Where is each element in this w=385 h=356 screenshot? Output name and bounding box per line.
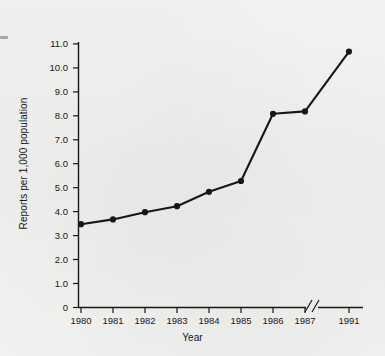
data-point-1985	[238, 178, 244, 184]
x-tick-label-1987: 1987	[285, 315, 325, 326]
data-point-1987	[302, 108, 308, 114]
data-point-1982	[142, 209, 148, 215]
data-point-1981	[110, 216, 116, 222]
data-point-markers	[78, 49, 352, 228]
y-tick-label-3: 3.0	[34, 230, 68, 241]
x-axis-ticks	[81, 308, 349, 314]
x-tick-label-1991: 1991	[329, 315, 369, 326]
y-tick-label-5: 5.0	[34, 182, 68, 193]
y-tick-label-1: 1.0	[34, 278, 68, 289]
y-tick-label-10: 10.0	[34, 62, 68, 73]
data-point-1983	[174, 203, 180, 209]
data-point-1991	[346, 49, 352, 55]
data-point-1984	[206, 189, 212, 195]
y-tick-label-0: 0	[34, 302, 68, 313]
data-point-1980	[78, 221, 84, 227]
x-axis-title: Year	[0, 332, 385, 343]
y-tick-label-9: 9.0	[34, 86, 68, 97]
y-tick-label-11: 11.0	[34, 38, 68, 49]
data-point-1986	[270, 111, 276, 117]
axis-break-marker	[305, 300, 319, 312]
y-tick-label-2: 2.0	[34, 254, 68, 265]
y-tick-label-8: 8.0	[34, 110, 68, 121]
y-tick-label-7: 7.0	[34, 134, 68, 145]
line-chart-figure: 11.0 10.0 9.0 8.0 7.0 6.0 5.0 4.0 3.0 2.…	[0, 0, 385, 356]
data-line-series-1	[81, 52, 349, 225]
y-tick-label-4: 4.0	[34, 206, 68, 217]
y-axis-ticks	[73, 44, 79, 308]
y-tick-label-6: 6.0	[34, 158, 68, 169]
y-axis-title: Reports per 1,000 population	[18, 89, 29, 239]
